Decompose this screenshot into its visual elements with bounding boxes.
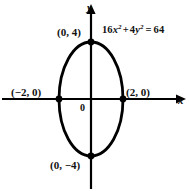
equation-exponent-y: 2 xyxy=(140,23,144,31)
equation-right-hand-side: 64 xyxy=(154,24,165,35)
x-axis-label: x xyxy=(178,95,184,106)
vertex-dot-top xyxy=(88,39,95,46)
equation-plus-sign: + xyxy=(122,24,130,35)
point-label-top: (0, 4) xyxy=(57,27,81,38)
ellipse-figure: 16x2+4y2=64 (0, 4) (−2, 0) (2, 0) (0, −4… xyxy=(0,0,189,191)
equation-annotation: 16x2+4y2=64 xyxy=(102,25,164,36)
vertex-dot-left xyxy=(56,96,63,103)
equation-coefficient-x: 16 xyxy=(102,24,113,35)
point-label-bottom: (0, −4) xyxy=(50,160,80,171)
equation-equals-sign: = xyxy=(144,24,154,35)
point-label-left: (−2, 0) xyxy=(11,87,41,98)
point-label-right: (2, 0) xyxy=(126,87,150,98)
origin-label: 0 xyxy=(80,103,85,113)
vertex-dot-bottom xyxy=(88,153,95,160)
y-axis-label: y xyxy=(87,2,92,13)
